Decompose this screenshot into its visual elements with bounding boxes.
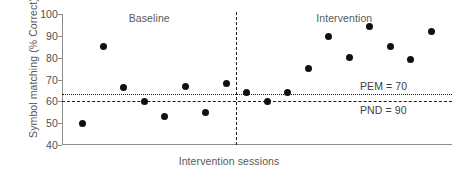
y-tick-mark	[58, 80, 62, 81]
y-tick-mark	[58, 14, 62, 15]
y-tick-label: 100	[32, 8, 58, 20]
data-point	[305, 65, 312, 72]
data-point	[264, 98, 271, 105]
data-point	[243, 89, 250, 96]
reference-line-pnd	[62, 101, 452, 102]
data-point	[428, 28, 435, 35]
data-point	[387, 43, 394, 50]
chart-figure: Symbol matching (% Correct) 100908070605…	[0, 0, 458, 177]
data-point	[202, 109, 209, 116]
y-tick-label: 70	[32, 74, 58, 86]
y-tick-label: 90	[32, 30, 58, 42]
phase-label-baseline: Baseline	[129, 12, 170, 24]
reference-line-pem	[62, 94, 452, 95]
reference-label-pem: PEM = 70	[360, 80, 407, 92]
data-point	[79, 120, 86, 127]
data-point	[223, 80, 230, 87]
y-tick-label: 60	[32, 95, 58, 107]
phase-label-intervention: Intervention	[316, 12, 372, 24]
y-tick-mark	[58, 123, 62, 124]
y-tick-mark	[58, 36, 62, 37]
data-point	[284, 89, 291, 96]
phase-divider-line	[236, 12, 237, 145]
y-tick-label: 40	[32, 139, 58, 151]
data-point	[407, 56, 414, 63]
y-tick-mark	[58, 145, 62, 146]
data-point	[325, 33, 332, 40]
y-tick-label: 50	[32, 117, 58, 129]
x-axis-label: Intervention sessions	[0, 155, 458, 167]
data-point	[141, 98, 148, 105]
data-point	[120, 84, 127, 91]
data-point	[182, 83, 189, 90]
data-point	[161, 113, 168, 120]
x-axis-line	[62, 144, 452, 145]
plot-area: BaselineIntervention PEM = 70PND = 90	[62, 14, 452, 145]
y-tick-mark	[58, 58, 62, 59]
reference-label-pnd: PND = 90	[360, 104, 407, 116]
data-point	[100, 43, 107, 50]
data-point	[346, 54, 353, 61]
y-tick-label: 80	[32, 52, 58, 64]
y-axis-line	[62, 14, 63, 145]
y-axis-tick-labels: 100908070605040	[30, 0, 58, 177]
